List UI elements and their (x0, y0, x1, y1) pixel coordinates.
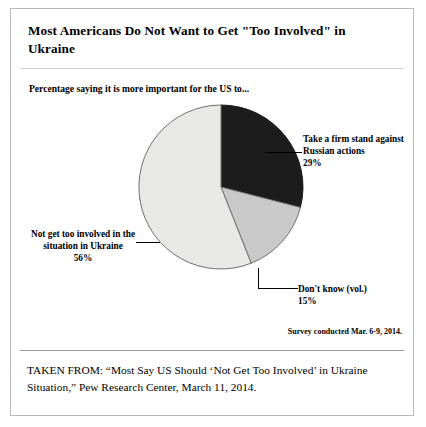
label-dont-know: Don't know (vol.) 15% (298, 283, 408, 307)
leader-line-firm-stand (266, 152, 302, 153)
divider-bottom (20, 350, 404, 351)
pie-chart-svg (137, 103, 305, 271)
chart-subtitle: Percentage saying it is more important f… (29, 82, 359, 95)
label-firm-stand: Take a firm stand against Russian action… (303, 133, 407, 170)
label-firm-stand-value: 29% (303, 158, 322, 168)
label-dont-know-text: Don't know (vol.) (298, 284, 367, 294)
leader-line-not-involved (136, 242, 160, 243)
label-not-involved-text: Not get too involved in the situation in… (31, 229, 135, 251)
page-title: Most Americans Do Not Want to Get "Too I… (28, 22, 368, 58)
divider-top (20, 68, 404, 69)
leader-line-dont-know (258, 288, 298, 289)
source-note: TAKEN FROM: “Most Say US Should ‘Not Get… (27, 362, 385, 396)
screenshot-page: Most Americans Do Not Want to Get "Too I… (0, 0, 426, 427)
label-dont-know-value: 15% (298, 296, 317, 306)
leader-line-dont-know-vertical (258, 268, 259, 289)
pie-chart (137, 103, 305, 271)
label-not-involved: Not get too involved in the situation in… (30, 228, 136, 265)
label-not-involved-value: 56% (74, 253, 93, 263)
label-firm-stand-text: Take a firm stand against Russian action… (303, 134, 404, 156)
survey-note: Survey conducted Mar. 6-9, 2014. (222, 327, 402, 336)
